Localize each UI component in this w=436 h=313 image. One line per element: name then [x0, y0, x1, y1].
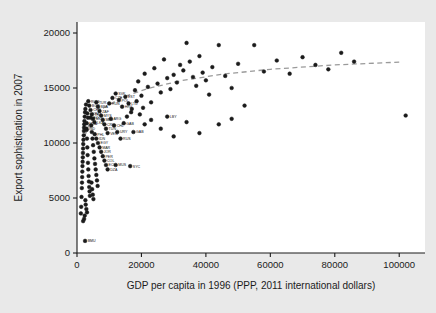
data-point [94, 173, 98, 177]
data-point [288, 72, 292, 76]
data-point [326, 67, 330, 71]
data-point-label: EGY [101, 141, 109, 145]
data-point [149, 118, 153, 122]
data-point [104, 127, 108, 131]
data-point [198, 131, 202, 135]
data-point-label: GEO [91, 116, 99, 120]
data-point [136, 80, 140, 84]
data-point [80, 186, 84, 190]
data-point [114, 163, 118, 167]
data-point [191, 75, 195, 79]
x-axis-tick-label: 0 [74, 259, 79, 270]
data-point [339, 51, 343, 55]
data-point [86, 161, 90, 165]
y-axis-tick-label: 5000 [49, 192, 70, 203]
data-point [99, 114, 103, 118]
data-point [93, 132, 97, 136]
data-point [111, 96, 115, 100]
data-point-label: SYC [133, 165, 141, 169]
data-point [81, 151, 85, 155]
data-point [85, 146, 89, 150]
data-point [101, 118, 105, 122]
data-point-label: HUN [112, 102, 120, 106]
data-point [165, 115, 169, 119]
data-point [92, 150, 96, 154]
data-point [185, 41, 189, 45]
data-point [86, 153, 90, 157]
data-point-label: JOR [104, 150, 112, 154]
data-point [79, 212, 83, 216]
data-point [91, 137, 95, 141]
data-point [143, 122, 147, 126]
data-point [98, 146, 102, 150]
data-point [119, 137, 123, 141]
data-point [103, 159, 107, 163]
data-point [85, 210, 89, 214]
data-point [275, 59, 279, 63]
data-point-label: BMU [88, 239, 96, 243]
data-point [138, 113, 142, 117]
data-point [201, 71, 205, 75]
data-point [132, 130, 136, 134]
data-point [210, 65, 214, 69]
data-point [252, 43, 256, 47]
x-axis-title: GDP per capita in 1996 (PPP, 2011 intern… [127, 280, 376, 291]
data-point-label: RUS [123, 137, 131, 141]
data-point [81, 160, 85, 164]
data-point [90, 181, 94, 185]
data-point-label: TUN [109, 127, 117, 131]
data-point [99, 150, 103, 154]
data-point [130, 107, 134, 111]
data-point [83, 239, 87, 243]
data-point [81, 147, 85, 151]
data-point [85, 137, 89, 141]
data-point-label: TUR [99, 101, 107, 105]
data-point [404, 114, 408, 118]
data-point [172, 73, 176, 77]
data-point [94, 100, 98, 104]
data-point [95, 179, 99, 183]
data-point [81, 155, 85, 159]
data-point [85, 121, 89, 125]
data-point [140, 94, 144, 98]
data-point [122, 121, 126, 125]
data-point [90, 187, 94, 191]
data-point-label: MAR [102, 146, 110, 150]
data-point [109, 117, 113, 121]
x-axis-tick-label: 20000 [128, 259, 154, 270]
data-point [91, 143, 95, 147]
data-point [129, 110, 133, 114]
data-point [104, 163, 108, 167]
data-point [217, 122, 221, 126]
data-point [243, 104, 247, 108]
data-point [103, 122, 107, 126]
y-axis-tick-label: 15000 [44, 82, 70, 93]
data-point-label: UKR [90, 112, 98, 116]
data-point [128, 164, 132, 168]
data-point [217, 43, 221, 47]
data-point [165, 76, 169, 80]
data-point [159, 127, 163, 131]
data-point [80, 175, 84, 179]
data-point-label: COL [107, 159, 114, 163]
x-axis-tick-label: 80000 [322, 259, 348, 270]
data-point [86, 99, 90, 103]
data-point [98, 109, 102, 113]
data-point [141, 106, 145, 110]
data-point [86, 168, 90, 172]
data-point-label: ARG [113, 117, 121, 121]
data-point-label: MUS [118, 163, 127, 167]
data-point [84, 198, 88, 202]
data-point-label: PER [105, 155, 113, 159]
data-point [101, 154, 105, 158]
data-point [81, 142, 85, 146]
data-point [85, 111, 89, 115]
data-point [146, 85, 150, 89]
data-point [156, 82, 160, 86]
data-point-label: ZAF [102, 110, 110, 114]
data-point [230, 117, 234, 121]
y-axis-tick-label: 20000 [44, 27, 70, 38]
chart-canvas: ROMBGRCHNTHAMKDLKAUKRGEOMDAINDTURBRAZAFM… [0, 0, 436, 313]
data-point [87, 174, 91, 178]
data-point [133, 88, 137, 92]
